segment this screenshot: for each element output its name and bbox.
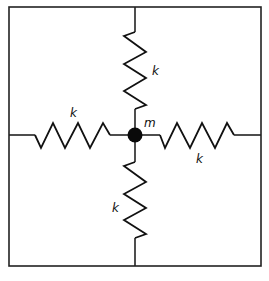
spring-right-coil [160,123,234,148]
spring-left-coil [35,123,110,148]
label-k-left: k [70,106,78,120]
label-m: m [144,116,156,130]
spring-right [140,123,261,148]
spring-bottom-coil [124,162,146,238]
label-k-top: k [152,64,160,78]
spring-top [124,7,146,130]
spring-mass-diagram: k k k k m [0,0,269,281]
spring-bottom [124,140,146,266]
spring-top-coil [124,32,146,109]
label-k-bottom: k [112,201,120,215]
spring-left [9,123,130,148]
mass-m [128,128,143,143]
label-k-right: k [196,152,204,166]
